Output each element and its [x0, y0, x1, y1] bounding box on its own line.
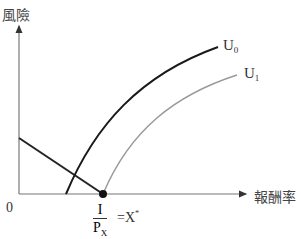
fraction-denominator: PX: [93, 219, 107, 239]
y-axis-label: 風險: [2, 4, 30, 24]
origin-label: 0: [6, 200, 13, 216]
point-label-fraction: I PX: [93, 201, 107, 239]
indifference-curve-u0: [66, 47, 218, 194]
indifference-curve-u1: [103, 75, 237, 194]
fraction-numerator: I: [93, 201, 107, 219]
x-axis-label: 報酬率: [254, 186, 296, 206]
point-label-equals: =X*: [117, 209, 139, 226]
u1-label: U1: [244, 65, 259, 83]
optimal-point: [99, 190, 107, 198]
u0-label: U0: [223, 37, 238, 55]
